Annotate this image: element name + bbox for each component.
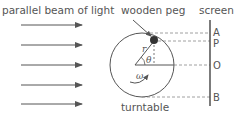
- angle-arc: [141, 57, 145, 65]
- light-beam-arrows: [21, 25, 82, 104]
- angle-label: θ: [146, 55, 152, 65]
- point-p-label: P: [213, 38, 219, 49]
- radius-label: r: [142, 44, 147, 54]
- beam-label: parallel beam of light: [2, 4, 114, 16]
- point-a-label: A: [213, 27, 220, 38]
- point-o-label: O: [213, 60, 221, 71]
- wooden-peg: [150, 36, 158, 44]
- turntable-label: turntable: [121, 101, 169, 113]
- peg-label: wooden peg: [121, 4, 185, 16]
- screen-label: screen: [199, 4, 234, 16]
- point-b-label: B: [213, 92, 220, 103]
- omega-label: ω: [136, 71, 144, 81]
- diagram: parallel beam of light wooden peg screen…: [0, 0, 238, 116]
